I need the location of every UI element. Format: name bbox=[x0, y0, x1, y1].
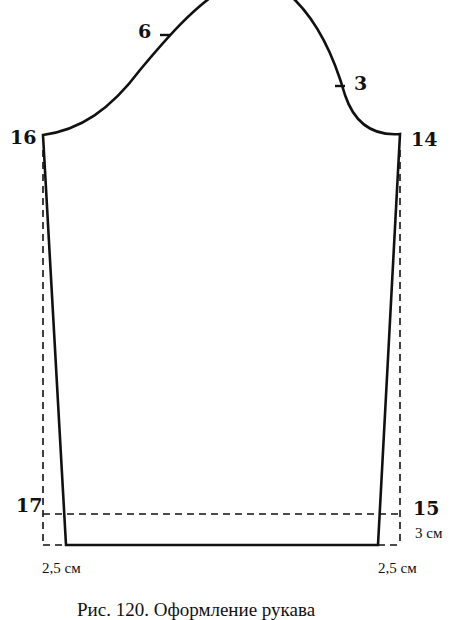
notch-label-3: 3 bbox=[354, 74, 367, 93]
figure-caption: Рис. 120. Оформление рукава bbox=[77, 600, 315, 619]
sleeve-outline bbox=[43, 0, 400, 545]
left-offset-dimension: 2,5 см bbox=[42, 561, 81, 576]
point-label-15: 15 bbox=[413, 499, 439, 518]
point-label-17: 17 bbox=[16, 496, 42, 515]
hem-height-dimension: 3 см bbox=[415, 526, 442, 541]
point-label-14: 14 bbox=[411, 130, 437, 149]
point-label-16: 16 bbox=[10, 128, 36, 147]
construction-lines bbox=[43, 150, 400, 545]
right-offset-dimension: 2,5 см bbox=[378, 561, 417, 576]
notch-label-6: 6 bbox=[138, 22, 151, 41]
